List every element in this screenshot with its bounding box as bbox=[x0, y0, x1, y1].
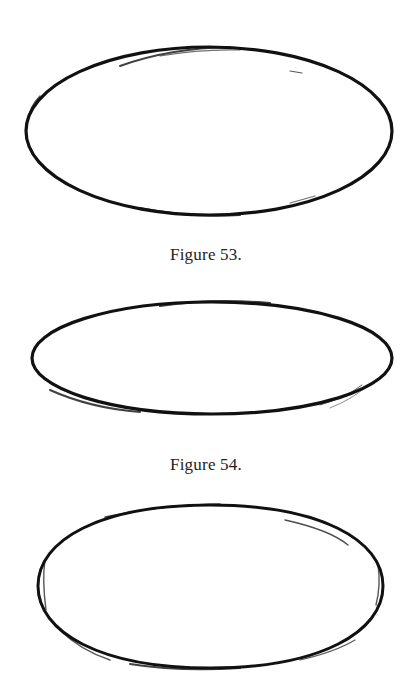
figure-53-caption: Figure 53. bbox=[0, 245, 412, 265]
figure-54-ellipse bbox=[32, 301, 392, 414]
figure-55-ellipse bbox=[38, 504, 383, 669]
figure-drawings bbox=[0, 0, 412, 685]
figure-54-caption: Figure 54. bbox=[0, 455, 412, 475]
figure-53-ellipse bbox=[26, 47, 392, 216]
